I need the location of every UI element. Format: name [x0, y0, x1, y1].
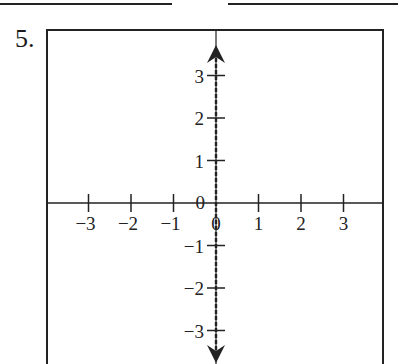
y-tick-label: 2 — [195, 108, 205, 129]
y-tick-label: −1 — [184, 236, 204, 257]
x-tick-label: 3 — [339, 213, 349, 234]
x-tick-label: −3 — [75, 213, 95, 234]
coordinate-plane: −3−2−101233210−1−2−3 — [0, 0, 398, 364]
y-tick-label: 1 — [195, 151, 205, 172]
x-tick-label: 1 — [254, 213, 264, 234]
y-tick-label: −3 — [184, 321, 204, 342]
y-tick-label: 0 — [196, 192, 206, 213]
y-tick-label: −2 — [184, 278, 204, 299]
x-tick-label: −2 — [118, 213, 138, 234]
x-tick-label: −1 — [160, 213, 180, 234]
x-tick-label: 2 — [296, 213, 306, 234]
y-tick-label: 3 — [195, 66, 205, 87]
